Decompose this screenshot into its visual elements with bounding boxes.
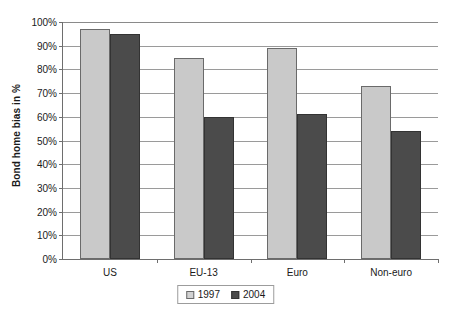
legend-swatch-icon — [231, 291, 239, 299]
gridline — [63, 22, 438, 23]
plot-area: 0%10%20%30%40%50%60%70%80%90%100%USEU-13… — [62, 22, 438, 260]
y-axis-tick-label: 40% — [37, 159, 57, 170]
y-axis-tick-mark — [59, 46, 63, 47]
bar-eu-13-2004 — [204, 117, 234, 259]
y-axis-tick-label: 90% — [37, 40, 57, 51]
x-axis-tick-mark — [157, 259, 158, 263]
x-axis-category-label: EU-13 — [189, 267, 217, 278]
y-axis-title: Bond home bias in % — [11, 71, 22, 201]
bar-non-euro-2004 — [391, 131, 421, 259]
x-axis-tick-mark — [251, 259, 252, 263]
y-axis-tick-mark — [59, 93, 63, 94]
y-axis-tick-mark — [59, 69, 63, 70]
legend-swatch-icon — [186, 291, 194, 299]
y-axis-tick-mark — [59, 117, 63, 118]
legend-item-2004: 2004 — [231, 289, 265, 300]
y-axis-tick-label: 100% — [31, 17, 57, 28]
bar-euro-2004 — [297, 114, 327, 259]
chart-legend: 19972004 — [177, 285, 275, 304]
bar-us-1997 — [80, 29, 110, 259]
x-axis-category-label: Euro — [287, 267, 308, 278]
legend-item-1997: 1997 — [186, 289, 220, 300]
y-axis-tick-label: 10% — [37, 230, 57, 241]
y-axis-tick-mark — [59, 141, 63, 142]
x-axis-tick-mark — [344, 259, 345, 263]
legend-label: 1997 — [198, 289, 220, 300]
x-axis-category-label: Non-euro — [370, 267, 412, 278]
bar-chart: Bond home bias in % 0%10%20%30%40%50%60%… — [0, 0, 451, 314]
y-axis-tick-label: 50% — [37, 135, 57, 146]
y-axis-tick-label: 20% — [37, 206, 57, 217]
y-axis-tick-mark — [59, 188, 63, 189]
bar-eu-13-1997 — [174, 58, 204, 259]
x-axis-category-label: US — [103, 267, 117, 278]
y-axis-tick-label: 60% — [37, 111, 57, 122]
y-axis-tick-label: 30% — [37, 182, 57, 193]
bar-euro-1997 — [267, 48, 297, 259]
bar-us-2004 — [110, 34, 140, 259]
y-axis-tick-mark — [59, 22, 63, 23]
y-axis-tick-mark — [59, 164, 63, 165]
y-axis-tick-mark — [59, 212, 63, 213]
bar-non-euro-1997 — [361, 86, 391, 259]
y-axis-tick-mark — [59, 235, 63, 236]
y-axis-tick-label: 80% — [37, 64, 57, 75]
y-axis-tick-label: 70% — [37, 88, 57, 99]
y-axis-tick-label: 0% — [43, 254, 57, 265]
y-axis-tick-mark — [59, 259, 63, 260]
legend-label: 2004 — [243, 289, 265, 300]
x-axis-tick-mark — [438, 259, 439, 263]
